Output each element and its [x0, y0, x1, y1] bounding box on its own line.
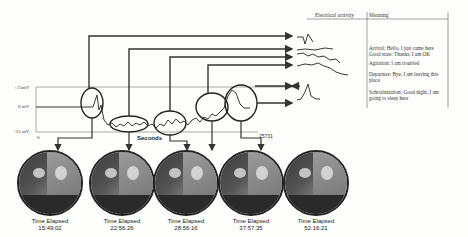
photo-caption-4: Time Elapsed37:57:35 [216, 218, 286, 232]
meaning-good-state: Good state: Thanks, I am OK [369, 51, 447, 57]
chart-axes [36, 87, 300, 132]
photo-1 [17, 150, 83, 216]
photo-3 [153, 150, 219, 216]
photo-4 [218, 150, 284, 216]
meaning-agitation: Agitation: I am troubled [369, 60, 447, 66]
signal-trace [36, 90, 250, 128]
photo-caption-3: Time Elapsed28:56:16 [151, 218, 221, 232]
y-label-minus15: -15 mV [14, 129, 29, 134]
meaning-schrotinization: Schrotinization: Good night, I am going … [369, 89, 447, 101]
y-label-plus15: +15mV [14, 85, 29, 90]
meaning-table: Electrical activity Meaning Arrival: Hel… [307, 12, 447, 109]
photo-caption-1: Time Elapsed15:49:02 [15, 218, 85, 232]
y-label-zero: 0 mV [18, 104, 29, 109]
x-label-start: 0 [37, 135, 40, 140]
connector-arrows [89, 36, 300, 116]
photo-caption-2: Time Elapsed22:56:26 [87, 218, 157, 232]
photo-arrows [58, 118, 261, 150]
header-electrical-activity: Electrical activity [315, 12, 354, 18]
photo-5 [283, 150, 349, 216]
meaning-departure: Departure: Bye, I am leaving this place [369, 71, 447, 83]
photo-caption-5: Time Elapsed52:16:21 [281, 218, 351, 232]
x-axis-label: Seconds [137, 135, 162, 141]
photo-2 [89, 150, 155, 216]
header-meaning: Meaning [369, 12, 389, 18]
x-label-end: 25731 [259, 133, 273, 139]
